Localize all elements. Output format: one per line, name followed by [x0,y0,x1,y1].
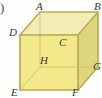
vertex-label-B: B [94,1,101,12]
vertex-label-A: A [36,1,43,12]
geometry-figure: ) A B C D E F G H [0,0,102,98]
vertex-label-H: H [40,55,48,66]
vertex-label-C: C [59,37,66,48]
vertex-label-E: E [11,87,18,98]
vertex-label-G: G [93,61,101,72]
cube-drawing [0,0,102,98]
vertex-label-D: D [9,27,17,38]
cube-front-face [20,35,78,90]
vertex-label-F: F [72,87,79,98]
item-marker: ) [0,1,4,14]
